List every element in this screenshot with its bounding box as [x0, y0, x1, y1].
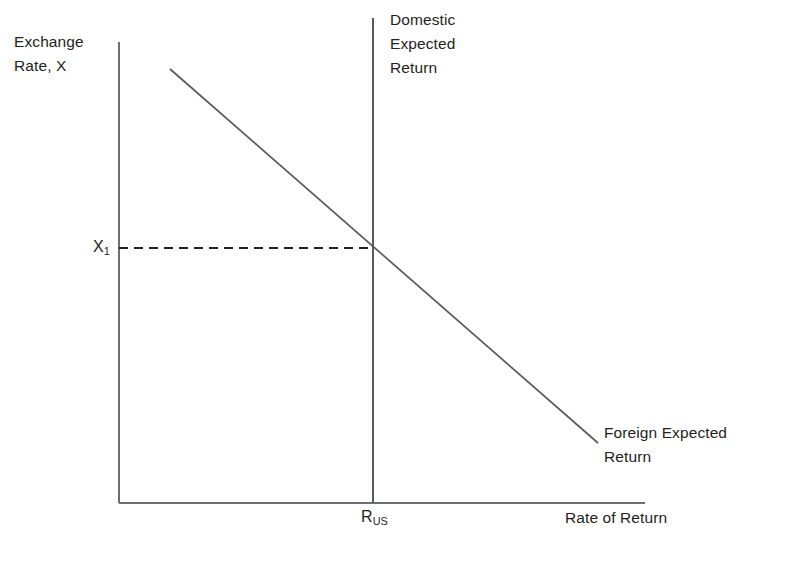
x-tick-label-base: R: [361, 508, 373, 525]
x-tick-label-subscript: US: [373, 515, 388, 527]
y-tick-label-x1: X1: [93, 235, 110, 260]
y-axis-title: Exchange Rate, X: [14, 30, 84, 78]
foreign-expected-return-curve: [170, 69, 598, 443]
y-tick-label-subscript: 1: [104, 245, 110, 257]
foreign-expected-return-label: Foreign Expected Return: [604, 421, 727, 469]
x-tick-label-rus: RUS: [361, 505, 388, 530]
x-axis-title: Rate of Return: [565, 506, 667, 530]
domestic-expected-return-label: Domestic Expected Return: [390, 8, 455, 80]
plot-area: [0, 0, 786, 562]
interest-parity-diagram: Exchange Rate, X Domestic Expected Retur…: [0, 0, 786, 562]
y-tick-label-base: X: [93, 238, 104, 255]
